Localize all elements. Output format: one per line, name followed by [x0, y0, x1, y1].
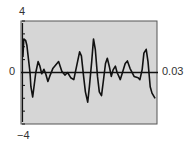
- y-min-label: −4: [17, 130, 30, 141]
- y-max-label: 4: [19, 6, 25, 17]
- x-min-label: 0: [9, 66, 15, 77]
- x-max-label: 0.03: [162, 66, 183, 77]
